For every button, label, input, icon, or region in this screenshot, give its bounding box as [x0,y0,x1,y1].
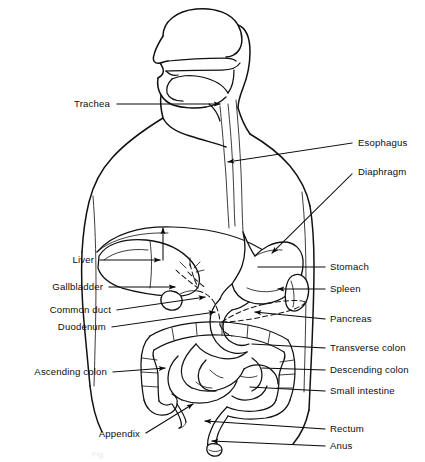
label-anus: Anus [330,440,353,451]
label-small-intestine: Small intestine [330,385,395,396]
figure-caption: Fig. [92,450,105,459]
label-duodenum: Duodenum [58,321,106,332]
label-esophagus: Esophagus [358,137,407,148]
label-rectum: Rectum [330,423,364,434]
label-diaphragm: Diaphragm [358,166,406,177]
anatomy-figure: TracheaLiverGallbladderCommon ductDuoden… [0,0,425,462]
label-stomach: Stomach [330,261,369,272]
label-descending-colon: Descending colon [330,364,409,375]
label-trachea: Trachea [74,98,110,109]
label-spleen: Spleen [330,283,361,294]
digestive-system-illustration: TracheaLiverGallbladderCommon ductDuoden… [0,0,425,462]
label-gallbladder: Gallbladder [52,281,103,292]
label-transverse-colon: Transverse colon [330,342,406,353]
label-ascending-colon: Ascending colon [34,366,107,377]
label-common-duct: Common duct [50,304,112,315]
label-appendix: Appendix [99,428,140,439]
label-liver: Liver [72,254,94,265]
label-pancreas: Pancreas [330,313,372,324]
